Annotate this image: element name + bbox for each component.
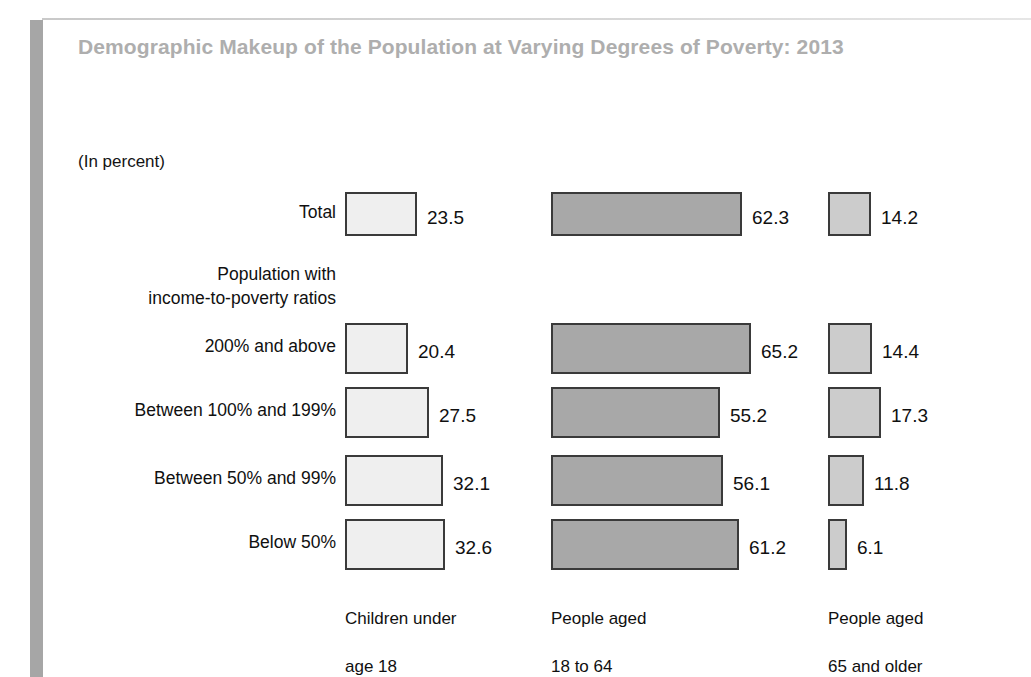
chart-row-below-50: Below 50% 32.6 61.2 6.1 [0,514,1031,570]
bar-value-children: 32.1 [453,474,490,493]
series-label-children: Children under age 18 [345,583,457,677]
bar-value-adults: 62.3 [752,208,789,227]
bar-seniors[interactable] [828,192,871,236]
bar-value-seniors: 14.4 [882,342,919,361]
group-header-line-2: income-to-poverty ratios [78,286,336,310]
row-label: Between 50% and 99% [78,450,336,506]
bar-children[interactable] [345,323,408,374]
bar-children[interactable] [345,387,429,438]
bar-seniors[interactable] [828,387,881,438]
bar-value-seniors: 14.2 [881,208,918,227]
series-label-seniors: People aged 65 and older [828,583,923,677]
chart-title: Demographic Makeup of the Population at … [78,32,958,62]
chart-row-100-to-199: Between 100% and 199% 27.5 55.2 17.3 [0,382,1031,438]
bar-value-seniors: 17.3 [891,406,928,425]
bar-adults[interactable] [551,192,742,236]
series-label-children-line-2: age 18 [345,655,457,677]
poverty-demographics-chart: Demographic Makeup of the Population at … [0,0,1031,677]
bar-value-adults: 65.2 [761,342,798,361]
bar-adults[interactable] [551,323,751,374]
bar-adults[interactable] [551,387,720,438]
bar-value-adults: 56.1 [733,474,770,493]
bar-seniors[interactable] [828,323,872,374]
row-label: Between 100% and 199% [78,382,336,438]
bar-value-children: 32.6 [455,538,492,557]
chart-row-50-to-99: Between 50% and 99% 32.1 56.1 11.8 [0,450,1031,506]
series-label-seniors-line-2: 65 and older [828,655,923,677]
chart-row-200-and-above: 200% and above 20.4 65.2 14.4 [0,318,1031,374]
row-label: 200% and above [78,318,336,374]
bar-adults[interactable] [551,519,739,570]
bar-value-adults: 55.2 [730,406,767,425]
bar-value-adults: 61.2 [749,538,786,557]
bar-children[interactable] [345,455,443,506]
bar-value-children: 20.4 [418,342,455,361]
bar-value-children: 27.5 [439,406,476,425]
group-header-line-1: Population with [78,262,336,286]
bar-seniors[interactable] [828,519,847,570]
chart-units-subtitle: (In percent) [78,152,165,172]
bar-children[interactable] [345,192,417,236]
bar-value-children: 23.5 [427,208,464,227]
bar-children[interactable] [345,519,445,570]
series-label-adults: People aged 18 to 64 [551,583,646,677]
series-label-adults-line-1: People aged [551,607,646,631]
row-label: Total [78,184,336,240]
row-label: Below 50% [78,514,336,570]
bar-seniors[interactable] [828,455,864,506]
bar-adults[interactable] [551,455,723,506]
bar-value-seniors: 11.8 [874,474,910,493]
chart-row-total: Total 23.5 62.3 14.2 [0,184,1031,240]
series-label-adults-line-2: 18 to 64 [551,655,646,677]
bar-value-seniors: 6.1 [857,538,883,557]
series-label-children-line-1: Children under [345,607,457,631]
series-label-seniors-line-1: People aged [828,607,923,631]
